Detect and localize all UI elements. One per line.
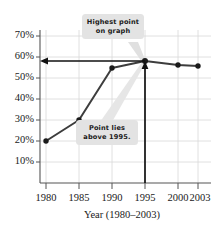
x-tick-label: 2000	[168, 192, 189, 203]
x-tick-label: 1980	[36, 192, 57, 203]
x-axis-label: Year (1980–2003)	[84, 209, 161, 221]
y-axis-tick-labels: 70% 60% 50% 40% 30% 20% 10%	[15, 29, 35, 166]
y-tick-label: 60%	[15, 50, 35, 61]
y-tick-label: 50%	[15, 71, 35, 82]
x-tick-label: 1995	[135, 192, 156, 203]
line-chart-figure: 70% 60% 50% 40% 30% 20% 10% 1980 1985 19…	[0, 0, 219, 230]
highest-point-callout-line1: Highest point	[87, 18, 139, 26]
point-above-callout-line2: above 1995.	[83, 133, 130, 141]
y-tick-label: 70%	[15, 29, 35, 40]
point-above-callout: Point lies above 1995.	[76, 120, 138, 145]
highest-point-callout-line2: on graph	[96, 27, 131, 35]
highest-point-callout: Highest point on graph	[82, 14, 144, 39]
point-above-callout-tail	[100, 62, 146, 122]
x-axis-tick-labels: 1980 1985 1990 1995 2000 2003	[36, 192, 211, 203]
chart-canvas: 70% 60% 50% 40% 30% 20% 10% 1980 1985 19…	[0, 0, 219, 230]
x-axis-ticks	[46, 183, 198, 189]
x-tick-label: 1985	[69, 192, 90, 203]
y-tick-label: 10%	[15, 155, 35, 166]
callout-tails	[100, 42, 146, 122]
arrowhead-left-icon	[40, 58, 48, 65]
y-axis-ticks	[36, 36, 40, 162]
x-tick-label: 2003	[190, 192, 211, 203]
data-point-marker	[195, 63, 200, 68]
data-point-marker	[109, 65, 114, 70]
y-tick-label: 40%	[15, 92, 35, 103]
data-point-marker	[175, 62, 180, 67]
point-above-callout-line1: Point lies	[89, 124, 125, 132]
y-tick-label: 20%	[15, 134, 35, 145]
gridlines-vertical	[46, 30, 198, 183]
y-tick-label: 30%	[15, 113, 35, 124]
x-tick-label: 1990	[102, 192, 123, 203]
data-point-marker	[43, 138, 48, 143]
vertical-guide-arrow	[142, 61, 149, 183]
